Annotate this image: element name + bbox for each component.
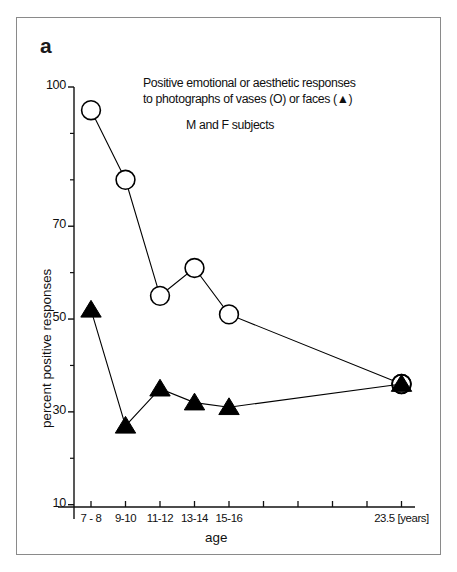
x-axis-tick-label: 15-16 xyxy=(174,512,284,524)
series-line xyxy=(91,310,402,426)
y-axis-tick-label: 70 xyxy=(22,217,66,231)
data-point-triangle xyxy=(184,393,204,410)
figure-panel: a Positive emotional or aesthetic respon… xyxy=(16,17,441,555)
y-axis-tick-label: 50 xyxy=(22,310,66,324)
data-point-triangle xyxy=(81,300,101,317)
x-axis-tick-label: 23.5 [years] xyxy=(347,512,457,524)
data-point-circle xyxy=(116,170,135,189)
series-line xyxy=(91,110,402,384)
data-point-circle xyxy=(185,259,204,278)
y-axis-tick-label: 100 xyxy=(22,78,66,92)
series-vases xyxy=(82,101,411,394)
x-axis-title: age xyxy=(205,530,227,545)
series-faces xyxy=(81,300,412,433)
y-axis-tick-label: 10 xyxy=(22,496,66,510)
data-point-circle xyxy=(82,101,101,120)
data-point-circle xyxy=(220,305,239,324)
y-axis-tick-label: 30 xyxy=(22,403,66,417)
data-point-triangle xyxy=(150,379,170,396)
chart-plot-area xyxy=(17,18,441,555)
data-point-circle xyxy=(151,286,170,305)
